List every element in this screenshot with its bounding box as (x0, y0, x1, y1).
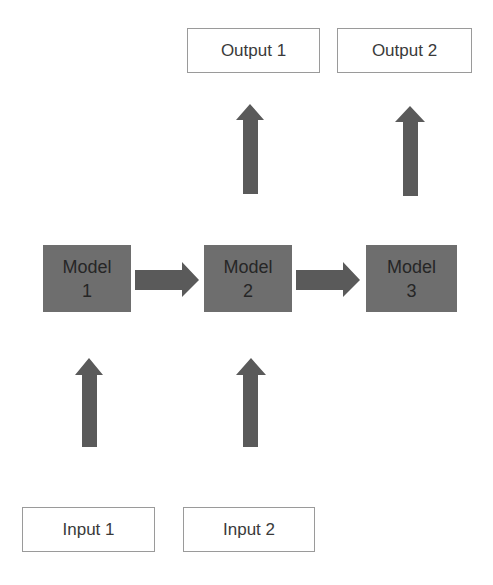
up-arrow-icon (395, 106, 425, 196)
right-arrow-icon (135, 262, 199, 297)
up-arrow-icon (236, 358, 266, 447)
up-arrow-icon (236, 104, 264, 194)
arrows-layer (0, 0, 493, 585)
up-arrow-icon (75, 358, 103, 447)
right-arrow-icon (296, 262, 360, 297)
